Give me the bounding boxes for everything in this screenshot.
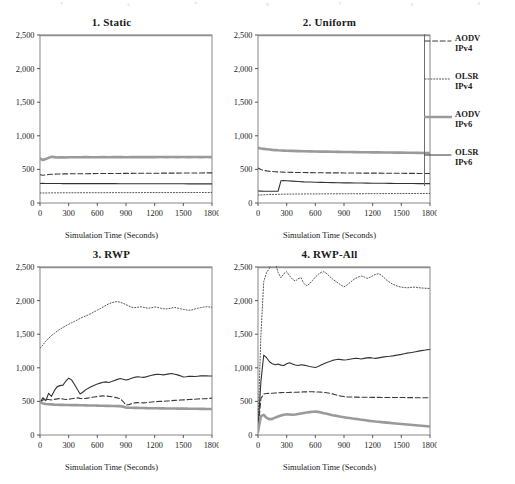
svg-text:1800: 1800 [204, 441, 219, 450]
svg-text:2,500: 2,500 [16, 31, 35, 40]
panel-1-plot: 05001,0001,5002,0002,5000300600900120015… [4, 29, 219, 229]
svg-text:0: 0 [248, 199, 252, 208]
svg-text:1200: 1200 [146, 441, 163, 450]
svg-text:1,000: 1,000 [16, 364, 35, 373]
svg-text:900: 900 [120, 209, 132, 218]
panel-4-plot: 05001,0001,5002,0002,5000300600900120015… [222, 261, 437, 461]
svg-text:2,000: 2,000 [234, 297, 253, 306]
svg-text:2,000: 2,000 [16, 65, 35, 74]
panel-1-static: 1. Static 05001,0001,5002,0002,500030060… [4, 16, 219, 244]
panel-4-rwp-all: 4. RWP-All 05001,0001,5002,0002,50003006… [222, 248, 437, 476]
svg-text:1800: 1800 [204, 209, 219, 218]
svg-text:900: 900 [338, 209, 350, 218]
svg-text:1,000: 1,000 [234, 364, 253, 373]
legend-label-ip-version: IPv4 [455, 82, 478, 92]
svg-text:1500: 1500 [175, 441, 192, 450]
panel-2-plot: 05001,0001,5002,0002,5000300600900120015… [222, 29, 437, 229]
panel-2-uniform: 2. Uniform 05001,0001,5002,0002,50003006… [222, 16, 437, 244]
legend-swatch-olsr-ipv6 [424, 148, 452, 162]
legend-entry-aodv-ipv4[interactable]: AODVIPv4 [424, 34, 480, 62]
panel-4-title: 4. RWP-All [222, 248, 437, 261]
svg-text:0: 0 [38, 209, 42, 218]
panel-3-xaxis-label: Simulation Time (Seconds) [4, 462, 219, 472]
legend-swatch-olsr-ipv4 [424, 72, 452, 86]
svg-text:2,000: 2,000 [16, 297, 35, 306]
svg-text:1,000: 1,000 [16, 132, 35, 141]
svg-text:0: 0 [38, 441, 42, 450]
svg-text:2,500: 2,500 [234, 31, 253, 40]
panel-2-xaxis-label: Simulation Time (Seconds) [222, 230, 437, 240]
svg-text:1,000: 1,000 [234, 132, 253, 141]
svg-text:900: 900 [338, 441, 350, 450]
legend-label: AODVIPv4 [452, 34, 480, 53]
svg-text:1200: 1200 [364, 441, 381, 450]
legend-label-ip-version: IPv4 [455, 44, 480, 54]
svg-text:1500: 1500 [175, 209, 192, 218]
panel-3-rwp: 3. RWP 05001,0001,5002,0002,500030060090… [4, 248, 219, 476]
svg-text:1,500: 1,500 [16, 98, 35, 107]
panel-3-plot: 05001,0001,5002,0002,5000300600900120015… [4, 261, 219, 461]
svg-text:1800: 1800 [422, 441, 437, 450]
svg-text:300: 300 [62, 209, 74, 218]
legend-swatch-aodv-ipv6 [424, 110, 452, 124]
svg-text:0: 0 [248, 431, 252, 440]
panel-1-title: 1. Static [4, 16, 219, 29]
panel-3-title: 3. RWP [4, 248, 219, 261]
panel-4-xaxis-label: Simulation Time (Seconds) [222, 462, 437, 472]
legend-label: OLSRIPv6 [452, 148, 478, 167]
svg-text:600: 600 [91, 441, 103, 450]
svg-text:1200: 1200 [364, 209, 381, 218]
svg-text:600: 600 [309, 209, 321, 218]
svg-text:500: 500 [22, 397, 34, 406]
svg-text:600: 600 [309, 441, 321, 450]
legend-entry-olsr-ipv6[interactable]: OLSRIPv6 [424, 148, 478, 176]
legend-entry-olsr-ipv4[interactable]: OLSRIPv4 [424, 72, 478, 100]
scan-artifact-band [0, 0, 515, 8]
chart-legend: AODVIPv4OLSRIPv4AODVIPv6OLSRIPv6 [424, 34, 515, 186]
panel-1-xaxis-label: Simulation Time (Seconds) [4, 230, 219, 240]
svg-text:1800: 1800 [422, 209, 437, 218]
svg-text:2,500: 2,500 [16, 263, 35, 272]
svg-text:500: 500 [22, 165, 34, 174]
svg-text:1500: 1500 [393, 441, 410, 450]
legend-entry-aodv-ipv6[interactable]: AODVIPv6 [424, 110, 480, 138]
svg-text:500: 500 [240, 397, 252, 406]
svg-text:900: 900 [120, 441, 132, 450]
multi-panel-line-chart-figure: 1. Static 05001,0001,5002,0002,500030060… [0, 0, 515, 484]
svg-text:600: 600 [91, 209, 103, 218]
legend-label: OLSRIPv4 [452, 72, 478, 91]
svg-text:0: 0 [30, 199, 34, 208]
svg-text:300: 300 [62, 441, 74, 450]
svg-text:0: 0 [256, 441, 260, 450]
svg-text:2,000: 2,000 [234, 65, 253, 74]
legend-label: AODVIPv6 [452, 110, 480, 129]
svg-text:1200: 1200 [146, 209, 163, 218]
svg-text:0: 0 [256, 209, 260, 218]
svg-text:0: 0 [30, 431, 34, 440]
svg-text:300: 300 [280, 441, 292, 450]
legend-swatch-aodv-ipv4 [424, 34, 452, 48]
svg-text:1,500: 1,500 [234, 330, 253, 339]
svg-text:300: 300 [280, 209, 292, 218]
svg-text:1,500: 1,500 [16, 330, 35, 339]
svg-text:500: 500 [240, 165, 252, 174]
legend-label-ip-version: IPv6 [455, 120, 480, 130]
legend-label-ip-version: IPv6 [455, 158, 478, 168]
svg-text:1500: 1500 [393, 209, 410, 218]
panel-2-title: 2. Uniform [222, 16, 437, 29]
svg-text:1,500: 1,500 [234, 98, 253, 107]
svg-text:2,500: 2,500 [234, 263, 253, 272]
